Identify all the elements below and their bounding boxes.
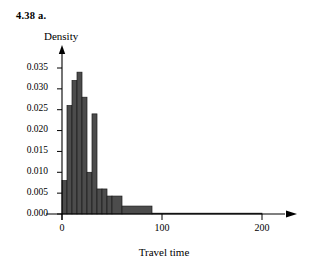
bars-group	[62, 72, 262, 214]
histogram-bar	[62, 181, 67, 214]
x-axis-arrow-icon	[286, 210, 297, 217]
histogram-bar	[92, 114, 97, 214]
histogram-bar	[102, 189, 107, 214]
histogram-bar	[112, 196, 122, 214]
histogram-bar	[82, 97, 87, 214]
histogram-figure: 4.38 a. Density Travel time 0.0000.0050.…	[0, 0, 316, 274]
histogram-bar	[97, 189, 102, 214]
chart-canvas	[0, 0, 316, 274]
histogram-bar	[72, 81, 77, 214]
histogram-bar	[122, 206, 152, 214]
histogram-bar	[87, 172, 92, 214]
histogram-bar	[67, 106, 72, 214]
histogram-bar	[107, 196, 112, 214]
plot-area: Density Travel time 0.0000.0050.0100.015…	[0, 0, 316, 274]
histogram-bar	[77, 72, 82, 214]
y-axis-arrow-icon	[59, 45, 65, 54]
